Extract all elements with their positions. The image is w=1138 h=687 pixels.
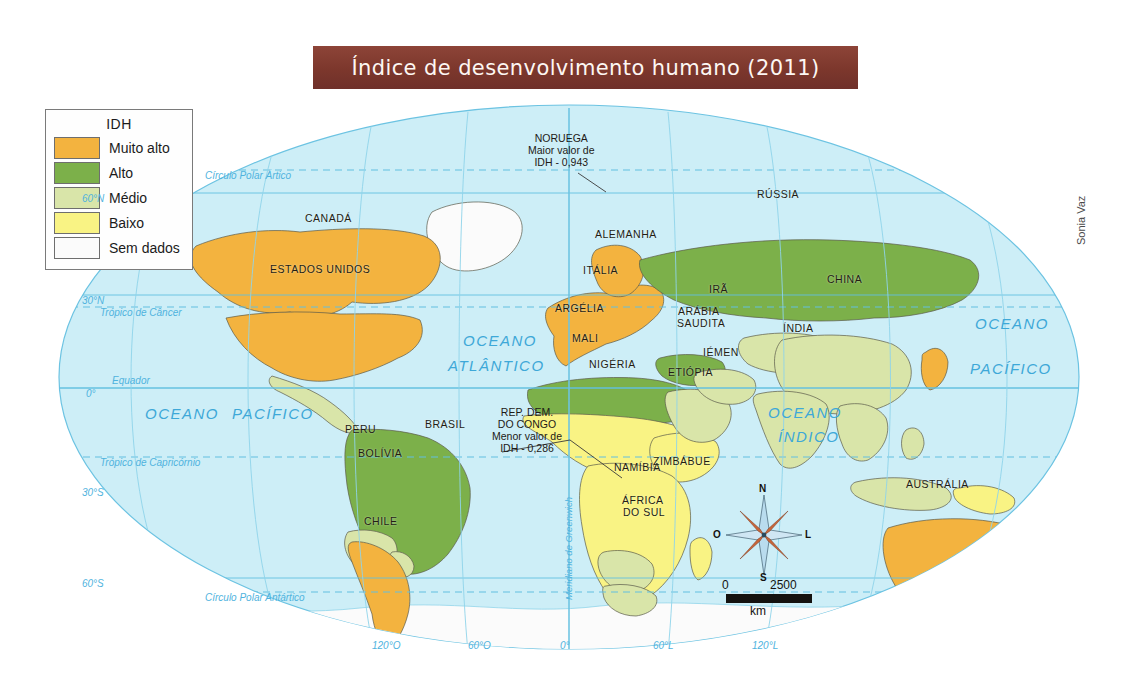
legend-item-alto[interactable]: Alto — [54, 162, 184, 184]
longitude-label: 120°O — [372, 640, 400, 651]
land-new-zealand — [1042, 603, 1068, 636]
compass-rose: N S O L — [722, 487, 806, 579]
country-label: MALI — [572, 332, 599, 344]
country-label: BRASIL — [425, 418, 465, 430]
country-label: ARGÉLIA — [555, 302, 604, 314]
map-title-banner: Índice de desenvolvimento humano (2011) — [313, 46, 858, 89]
legend-item-medio[interactable]: Médio — [54, 187, 184, 209]
country-label: ETIÓPIA — [668, 366, 713, 378]
country-label: ÍNDIA — [783, 322, 814, 334]
callout-norway: NORUEGA Maior valor de IDH - 0,943 — [528, 132, 595, 168]
legend-swatch — [54, 212, 100, 234]
named-parallel-label: Círculo Polar Ártico — [205, 170, 291, 181]
legend-item-baixo[interactable]: Baixo — [54, 212, 184, 234]
compass-east-label: L — [805, 529, 811, 540]
longitude-label: 120°L — [752, 640, 778, 651]
map-scale-bar: 0 2500 km — [722, 578, 817, 592]
ocean-label: ÍNDICO — [778, 428, 840, 445]
legend-swatch — [54, 137, 100, 159]
greenwich-meridian-label: Meridiano de Greenwich — [563, 497, 574, 600]
country-label: BOLÍVIA — [358, 447, 402, 459]
callout-congo-line2: DO CONGO — [492, 418, 562, 430]
latitude-label: 30°N — [82, 295, 104, 306]
callout-norway-line3: IDH - 0,943 — [528, 156, 595, 168]
ocean-label: OCEANO — [768, 404, 842, 421]
latitude-label: 30°S — [82, 487, 104, 498]
ocean-label: OCEANO — [145, 405, 219, 422]
map-legend: IDH Muito alto Alto Médio Baixo Sem dado… — [45, 109, 193, 270]
ocean-label: OCEANO — [975, 315, 1049, 332]
named-parallel-label: Equador — [112, 375, 150, 386]
country-label: CANADÁ — [305, 212, 352, 224]
scale-min-label: 0 — [722, 578, 729, 592]
callout-congo: REP. DEM. DO CONGO Menor valor de IDH - … — [492, 406, 562, 454]
country-label: RÚSSIA — [757, 188, 799, 200]
callout-norway-line1: NORUEGA — [528, 132, 595, 144]
page-title: Índice de desenvolvimento humano (2011) — [351, 56, 819, 80]
country-label: ESTADOS UNIDOS — [270, 263, 370, 275]
country-label: CHINA — [827, 273, 862, 285]
country-label: ARÁBIA — [678, 305, 720, 317]
ocean-label: OCEANO — [463, 332, 537, 349]
compass-north-label: N — [759, 483, 766, 494]
callout-norway-line2: Maior valor de — [528, 144, 595, 156]
named-parallel-label: Círculo Polar Antártico — [205, 592, 305, 603]
legend-label: Muito alto — [109, 140, 170, 156]
country-label: SAUDITA — [677, 317, 725, 329]
country-label: DO SUL — [623, 506, 665, 518]
named-parallel-label: Trópico de Câncer — [100, 307, 182, 318]
latitude-label: 60°N — [82, 193, 104, 204]
latitude-label: 60°S — [82, 578, 104, 589]
legend-label: Médio — [109, 190, 147, 206]
country-label: ZIMBÁBUE — [653, 455, 711, 467]
compass-rose-icon — [722, 487, 806, 579]
legend-label: Baixo — [109, 215, 144, 231]
callout-congo-line4: IDH - 0,286 — [492, 442, 562, 454]
ocean-label: ATLÂNTICO — [448, 357, 545, 374]
land-australia — [883, 519, 1045, 622]
land-antarctica — [60, 602, 1090, 660]
legend-swatch — [54, 162, 100, 184]
named-parallel-label: Trópico de Capricórnio — [100, 457, 200, 468]
legend-swatch — [54, 237, 100, 259]
legend-item-sem-dados[interactable]: Sem dados — [54, 237, 184, 259]
country-label: IÉMEN — [703, 346, 739, 358]
map-figure: Índice de desenvolvimento humano (2011) — [0, 0, 1138, 687]
country-label: PERU — [345, 423, 376, 435]
country-label: CHILE — [364, 515, 397, 527]
longitude-label: 60°L — [653, 640, 674, 651]
country-label: ÁFRICA — [622, 494, 664, 506]
compass-west-label: O — [713, 529, 721, 540]
legend-item-muito-alto[interactable]: Muito alto — [54, 137, 184, 159]
scale-bar-graphic — [726, 594, 812, 603]
country-label: IRÃ — [709, 283, 728, 295]
callout-congo-line3: Menor valor de — [492, 430, 562, 442]
country-label: NIGÉRIA — [589, 358, 636, 370]
callout-congo-line1: REP. DEM. — [492, 406, 562, 418]
scale-unit-label: km — [750, 604, 766, 618]
country-label: AUSTRÁLIA — [906, 478, 969, 490]
longitude-label: 60°O — [468, 640, 491, 651]
longitude-label: 0° — [560, 640, 570, 651]
latitude-label: 0° — [86, 388, 96, 399]
legend-label: Alto — [109, 165, 133, 181]
ocean-label: PACÍFICO — [970, 360, 1052, 377]
legend-label: Sem dados — [109, 240, 180, 256]
country-label: ALEMANHA — [595, 228, 657, 240]
country-label: ITÁLIA — [583, 264, 618, 276]
legend-title: IDH — [54, 116, 184, 132]
image-credit: Sonia Vaz — [1075, 196, 1087, 245]
scale-max-label: 2500 — [770, 578, 797, 592]
ocean-label: PACÍFICO — [232, 405, 314, 422]
